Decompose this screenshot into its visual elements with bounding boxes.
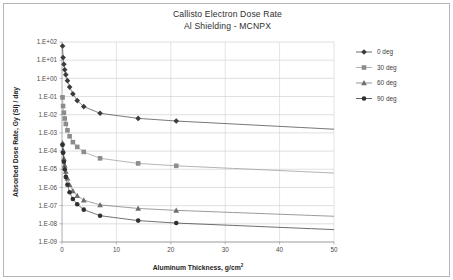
legend-label-0-deg: 0 deg [377, 48, 393, 56]
data-point-90-deg [60, 143, 65, 148]
legend-marker-90-deg [362, 96, 367, 101]
x-tick-label: 10 [113, 246, 121, 253]
data-point-30-deg [136, 161, 141, 166]
y-axis-label: Absorbed Dose Rate, Gy (Si) / day [12, 87, 20, 197]
x-tick-label: 0 [60, 246, 64, 253]
y-tick-label: 1.E-07 [38, 202, 57, 209]
data-point-30-deg [71, 140, 76, 145]
data-point-30-deg [75, 145, 80, 150]
legend-label-90-deg: 90 deg [377, 95, 397, 103]
series-line-30-deg [63, 97, 334, 173]
data-point-90-deg [64, 175, 69, 180]
series-line-60-deg [63, 143, 334, 216]
x-axis-label: Aluminum Thickness, g/cm2 [153, 263, 244, 272]
data-point-90-deg [98, 213, 103, 218]
x-tick-label: 30 [222, 246, 230, 253]
data-point-90-deg [174, 221, 179, 226]
chart-frame: Callisto Electron Dose Rate Al Shielding… [3, 3, 450, 277]
data-point-0-deg [65, 78, 71, 84]
data-point-90-deg [67, 190, 72, 195]
y-tick-label: 1.E-05 [38, 165, 57, 172]
legend-label-30-deg: 30 deg [377, 64, 397, 72]
y-tick-label: 1.E+02 [37, 38, 58, 45]
data-point-30-deg [60, 95, 65, 100]
data-point-90-deg [81, 207, 86, 212]
data-point-90-deg [136, 218, 141, 223]
data-point-30-deg [67, 134, 72, 139]
data-point-30-deg [62, 116, 67, 121]
x-tick-label: 50 [330, 246, 338, 253]
data-point-0-deg [97, 110, 103, 116]
data-point-30-deg [98, 156, 103, 161]
data-point-30-deg [174, 164, 179, 169]
y-tick-label: 1.E-06 [38, 184, 57, 191]
legend-label-60-deg: 60 deg [377, 79, 397, 87]
data-point-90-deg [71, 197, 76, 202]
data-point-0-deg [63, 72, 69, 78]
data-point-0-deg [60, 43, 66, 49]
data-point-30-deg [61, 104, 66, 109]
data-point-30-deg [65, 128, 70, 133]
data-point-30-deg [64, 122, 69, 127]
x-tick-label: 40 [276, 246, 284, 253]
data-point-0-deg [60, 55, 66, 61]
y-tick-label: 1.E-03 [38, 129, 57, 136]
data-point-90-deg [61, 151, 66, 156]
plot-area-wrapper: 1.E+021.E+011.E+001.E-011.E-021.E-031.E-… [4, 4, 451, 278]
data-point-90-deg [65, 183, 70, 188]
data-point-0-deg [62, 67, 68, 73]
data-point-0-deg [135, 116, 141, 122]
dose-rate-line-chart: 1.E+021.E+011.E+001.E-011.E-021.E-031.E-… [4, 4, 451, 278]
y-tick-label: 1.E-04 [38, 147, 57, 154]
legend-marker-30-deg [362, 65, 367, 70]
y-tick-label: 1.E+01 [37, 56, 58, 63]
y-tick-label: 1.E-08 [38, 220, 57, 227]
series-line-0-deg [63, 46, 334, 129]
data-point-0-deg [67, 84, 73, 90]
data-point-90-deg [62, 159, 67, 164]
data-point-30-deg [62, 110, 67, 115]
x-tick-label: 20 [167, 246, 175, 253]
y-tick-label: 1.E-01 [38, 93, 57, 100]
data-point-30-deg [81, 150, 86, 155]
y-tick-label: 1.E-09 [38, 238, 57, 245]
y-tick-label: 1.E-02 [38, 111, 57, 118]
data-point-0-deg [173, 118, 179, 124]
data-point-90-deg [75, 202, 80, 207]
data-point-0-deg [70, 91, 76, 97]
data-point-90-deg [62, 167, 67, 172]
y-tick-label: 1.E+00 [37, 75, 58, 82]
data-point-60-deg [81, 197, 87, 202]
